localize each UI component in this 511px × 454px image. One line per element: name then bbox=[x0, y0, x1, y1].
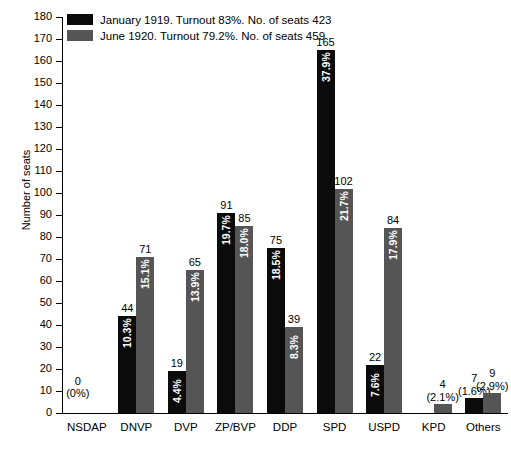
bar-rect[interactable]: 18.5% bbox=[267, 248, 285, 413]
bar-value-label: 85 bbox=[226, 213, 262, 224]
bar-percent-label: 8.3% bbox=[285, 330, 303, 342]
y-axis-tick-label: 170 bbox=[10, 33, 52, 44]
bar-value-label: 102 bbox=[326, 176, 362, 187]
y-axis-tick-label: 180 bbox=[10, 11, 52, 22]
bar-spd-series1[interactable]: 37.9%165 bbox=[317, 17, 335, 413]
bar-rect[interactable] bbox=[483, 393, 501, 413]
bar-rect[interactable]: 21.7% bbox=[335, 189, 353, 413]
bar-percent-label: 7.6% bbox=[366, 368, 384, 380]
bar-ddp-series1[interactable]: 18.5%75 bbox=[267, 17, 285, 413]
bar-group-dvp: 4.4%1913.9%65 bbox=[161, 17, 211, 413]
y-axis-tick-label: 30 bbox=[10, 341, 52, 352]
bar-percent-label: 10.3% bbox=[118, 319, 136, 331]
y-axis-tick-label: 110 bbox=[10, 165, 52, 176]
x-axis-label-others: Others bbox=[447, 421, 511, 434]
bar-kpd-series2[interactable]: 4(2.1%) bbox=[434, 17, 452, 413]
bar-value-label: 9 bbox=[474, 368, 510, 379]
plot-area: 0(0%)10.3%4415.1%714.4%1913.9%6519.7%911… bbox=[62, 17, 508, 413]
bar-value-label: 39 bbox=[276, 314, 312, 325]
bar-value-label: 65 bbox=[177, 257, 213, 268]
bar-kpd-series1[interactable] bbox=[416, 17, 434, 413]
bar-rect[interactable]: 37.9% bbox=[317, 50, 335, 413]
bar-rect[interactable]: 13.9% bbox=[186, 270, 204, 413]
bar-percent-label: 18.5% bbox=[267, 251, 285, 263]
bar-percent-label: 37.9% bbox=[317, 53, 335, 65]
y-axis-tick-label: 40 bbox=[10, 319, 52, 330]
y-axis-tick-label: 80 bbox=[10, 231, 52, 242]
y-axis-tick-label: 60 bbox=[10, 275, 52, 286]
bar-nsdap-series1[interactable]: 0(0%) bbox=[69, 17, 87, 413]
y-axis-tick-label: 140 bbox=[10, 99, 52, 110]
bar-zp-bvp-series2[interactable]: 18.0%85 bbox=[235, 17, 253, 413]
bar-rect[interactable]: 18.0% bbox=[235, 226, 253, 413]
y-axis-tick bbox=[56, 413, 63, 414]
bar-group-uspd: 7.6%2217.9%84 bbox=[359, 17, 409, 413]
bar-group-others: 7(1.6%)9(2.9%) bbox=[458, 17, 508, 413]
bar-group-ddp: 18.5%758.3%39 bbox=[260, 17, 310, 413]
bar-uspd-series2[interactable]: 17.9%84 bbox=[384, 17, 402, 413]
y-axis-tick-label: 100 bbox=[10, 187, 52, 198]
bar-value-label: 84 bbox=[375, 215, 411, 226]
bar-group-nsdap: 0(0%) bbox=[62, 17, 112, 413]
y-axis-tick-label: 20 bbox=[10, 363, 52, 374]
bar-percent-label: 21.7% bbox=[335, 192, 353, 204]
bar-rect[interactable]: 17.9% bbox=[384, 228, 402, 413]
bar-rect[interactable]: 8.3% bbox=[285, 327, 303, 413]
bar-group-dnvp: 10.3%4415.1%71 bbox=[112, 17, 162, 413]
bar-percent-label: 17.9% bbox=[384, 231, 402, 243]
bar-nsdap-series2[interactable] bbox=[87, 17, 105, 413]
y-axis-tick-label: 90 bbox=[10, 209, 52, 220]
bar-dvp-series1[interactable]: 4.4%19 bbox=[168, 17, 186, 413]
bar-rect[interactable] bbox=[434, 404, 452, 413]
bar-chart: Number of seats 010203040506070809010011… bbox=[0, 0, 511, 454]
bar-rect[interactable] bbox=[465, 398, 483, 413]
y-axis-tick-label: 50 bbox=[10, 297, 52, 308]
bar-percent-label: 13.9% bbox=[186, 273, 204, 285]
bar-percent-label: (2.9%) bbox=[463, 380, 511, 392]
bar-spd-series2[interactable]: 21.7%102 bbox=[335, 17, 353, 413]
y-axis-tick-label: 160 bbox=[10, 55, 52, 66]
bar-percent-label: 15.1% bbox=[136, 260, 154, 272]
bar-rect[interactable]: 7.6% bbox=[366, 365, 384, 413]
bar-value-label: 71 bbox=[127, 244, 163, 255]
y-axis-tick-label: 0 bbox=[10, 407, 52, 418]
bar-dnvp-series2[interactable]: 15.1%71 bbox=[136, 17, 154, 413]
bar-others-series1[interactable]: 7(1.6%) bbox=[465, 17, 483, 413]
bar-dvp-series2[interactable]: 13.9%65 bbox=[186, 17, 204, 413]
bar-rect[interactable]: 15.1% bbox=[136, 257, 154, 413]
x-axis-line bbox=[62, 413, 508, 414]
y-axis-tick-label: 120 bbox=[10, 143, 52, 154]
bar-ddp-series2[interactable]: 8.3%39 bbox=[285, 17, 303, 413]
bar-group-zp-bvp: 19.7%9118.0%85 bbox=[211, 17, 261, 413]
y-axis-tick-label: 70 bbox=[10, 253, 52, 264]
bar-rect[interactable]: 4.4% bbox=[168, 371, 186, 413]
bar-percent-label: 18.0% bbox=[235, 229, 253, 241]
bar-percent-label: 4.4% bbox=[168, 374, 186, 386]
bar-group-spd: 37.9%16521.7%102 bbox=[310, 17, 360, 413]
bar-rect[interactable]: 19.7% bbox=[217, 213, 235, 413]
bar-rect[interactable]: 10.3% bbox=[118, 316, 136, 413]
y-axis-tick-label: 150 bbox=[10, 77, 52, 88]
bar-group-kpd: 4(2.1%) bbox=[409, 17, 459, 413]
bar-dnvp-series1[interactable]: 10.3%44 bbox=[118, 17, 136, 413]
bar-others-series2[interactable]: 9(2.9%) bbox=[483, 17, 501, 413]
y-axis-tick-label: 130 bbox=[10, 121, 52, 132]
y-axis-tick-label: 10 bbox=[10, 385, 52, 396]
